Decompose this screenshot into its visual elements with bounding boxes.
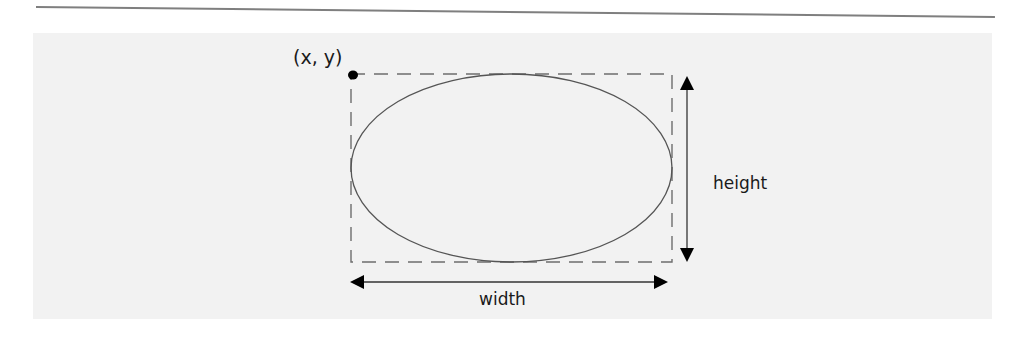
height-arrow-up-head-icon bbox=[680, 76, 694, 90]
ellipse-shape bbox=[351, 74, 672, 262]
height-label: height bbox=[713, 173, 768, 193]
bounding-box bbox=[351, 74, 672, 262]
origin-label: (x, y) bbox=[293, 46, 342, 68]
height-arrow-down-head-icon bbox=[680, 248, 694, 262]
width-arrow-right-head-icon bbox=[654, 275, 668, 289]
width-arrow-left-head-icon bbox=[350, 275, 364, 289]
width-label: width bbox=[479, 289, 526, 309]
ellipse-parameters-diagram: (x, y) height width bbox=[0, 0, 1022, 339]
origin-point-dot bbox=[348, 71, 358, 80]
